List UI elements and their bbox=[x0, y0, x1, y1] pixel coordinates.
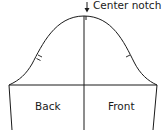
sleeve-pattern-drawing bbox=[0, 0, 164, 133]
sleeve-pattern-diagram: Center notch Back Front bbox=[0, 0, 164, 133]
center-notch-label: Center notch bbox=[93, 0, 161, 11]
back-underarm-seam bbox=[9, 85, 12, 130]
front-label: Front bbox=[108, 100, 135, 112]
sleeve-cap-curve bbox=[9, 16, 157, 85]
front-underarm-seam bbox=[153, 85, 157, 130]
back-double-notch bbox=[37, 55, 43, 61]
back-label: Back bbox=[35, 100, 61, 112]
down-arrow-icon bbox=[85, 2, 90, 13]
front-single-notch bbox=[126, 55, 130, 57]
